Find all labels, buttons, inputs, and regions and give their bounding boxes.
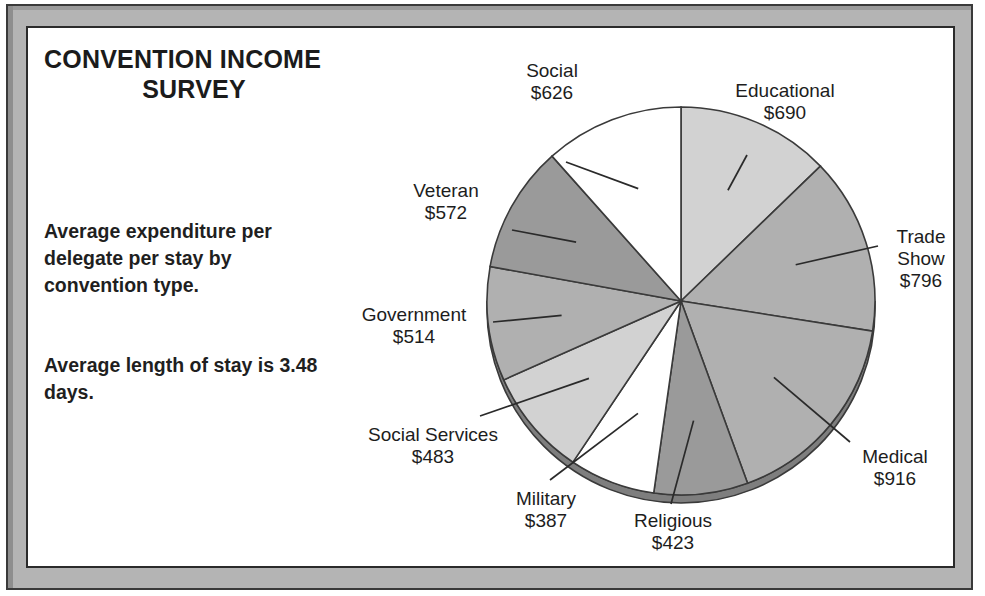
label-educational-name: Educational <box>700 80 870 102</box>
label-medical-value: $916 <box>830 468 960 490</box>
label-religious-name: Religious <box>608 510 738 532</box>
label-trade-show-line-2: Show <box>878 248 964 270</box>
label-social-services-name: Social Services <box>338 424 528 446</box>
label-trade-show-line-1: Trade <box>878 226 964 248</box>
pie-chart: Social $626 Educational $690 Trade Show … <box>330 34 970 562</box>
page-title-line-1: CONVENTION INCOME <box>44 44 344 74</box>
label-educational-value: $690 <box>700 102 870 124</box>
label-military-name: Military <box>486 488 606 510</box>
label-medical-name: Medical <box>830 446 960 468</box>
label-social-services: Social Services $483 <box>338 424 528 468</box>
annotation-paragraph: Average length of stay is 3.48 days. <box>44 352 334 406</box>
label-religious: Religious $423 <box>608 510 738 554</box>
label-veteran: Veteran $572 <box>376 180 516 224</box>
poster-root: CONVENTION INCOME SURVEY Average expendi… <box>0 0 985 596</box>
label-trade-show: Trade Show $796 <box>878 226 964 292</box>
label-military: Military $387 <box>486 488 606 532</box>
page-title: CONVENTION INCOME SURVEY <box>44 44 344 104</box>
label-social-value: $626 <box>492 82 612 104</box>
label-social-services-value: $483 <box>338 446 528 468</box>
pie-slice-group <box>487 107 875 495</box>
label-veteran-name: Veteran <box>376 180 516 202</box>
label-trade-show-value: $796 <box>878 270 964 292</box>
label-government: Government $514 <box>334 304 494 348</box>
label-religious-value: $423 <box>608 532 738 554</box>
label-educational: Educational $690 <box>700 80 870 124</box>
frame-bevel-top <box>8 6 971 10</box>
label-social: Social $626 <box>492 60 612 104</box>
label-government-name: Government <box>334 304 494 326</box>
label-military-value: $387 <box>486 510 606 532</box>
label-government-value: $514 <box>334 326 494 348</box>
frame-bevel-left <box>8 6 13 588</box>
subtitle-paragraph: Average expenditure per delegate per sta… <box>44 218 334 299</box>
label-social-name: Social <box>492 60 612 82</box>
label-medical: Medical $916 <box>830 446 960 490</box>
page-title-line-2: SURVEY <box>44 74 344 104</box>
label-veteran-value: $572 <box>376 202 516 224</box>
